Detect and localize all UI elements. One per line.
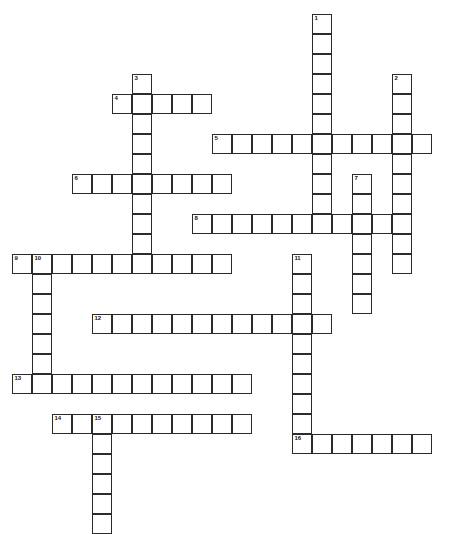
crossword-cell[interactable] bbox=[232, 314, 252, 334]
crossword-cell[interactable] bbox=[232, 134, 252, 154]
crossword-cell[interactable] bbox=[152, 314, 172, 334]
crossword-cell[interactable] bbox=[352, 294, 372, 314]
crossword-cell[interactable] bbox=[32, 294, 52, 314]
crossword-cell[interactable] bbox=[192, 94, 212, 114]
crossword-cell[interactable] bbox=[132, 114, 152, 134]
crossword-cell[interactable] bbox=[192, 414, 212, 434]
crossword-cell[interactable] bbox=[132, 154, 152, 174]
crossword-cell[interactable] bbox=[132, 254, 152, 274]
crossword-cell[interactable] bbox=[312, 114, 332, 134]
crossword-cell[interactable] bbox=[352, 194, 372, 214]
crossword-cell[interactable] bbox=[392, 194, 412, 214]
crossword-cell[interactable] bbox=[152, 414, 172, 434]
crossword-cell[interactable] bbox=[412, 434, 432, 454]
crossword-cell[interactable] bbox=[132, 234, 152, 254]
crossword-cell[interactable] bbox=[92, 434, 112, 454]
crossword-cell[interactable] bbox=[332, 214, 352, 234]
crossword-cell[interactable] bbox=[212, 374, 232, 394]
crossword-cell[interactable] bbox=[292, 294, 312, 314]
crossword-cell[interactable] bbox=[92, 494, 112, 514]
crossword-cell[interactable] bbox=[352, 134, 372, 154]
crossword-cell[interactable] bbox=[252, 214, 272, 234]
crossword-cell[interactable] bbox=[372, 214, 392, 234]
crossword-cell[interactable] bbox=[312, 194, 332, 214]
crossword-cell[interactable] bbox=[172, 94, 192, 114]
crossword-cell[interactable] bbox=[312, 434, 332, 454]
crossword-cell[interactable] bbox=[272, 214, 292, 234]
crossword-cell[interactable] bbox=[72, 254, 92, 274]
crossword-cell[interactable] bbox=[352, 234, 372, 254]
crossword-cell[interactable] bbox=[112, 314, 132, 334]
crossword-cell[interactable] bbox=[72, 374, 92, 394]
crossword-cell-numbered[interactable]: 4 bbox=[112, 94, 132, 114]
crossword-cell[interactable] bbox=[292, 414, 312, 434]
crossword-cell[interactable] bbox=[312, 134, 332, 154]
crossword-cell[interactable] bbox=[212, 254, 232, 274]
crossword-cell[interactable] bbox=[392, 114, 412, 134]
crossword-cell[interactable] bbox=[292, 394, 312, 414]
crossword-cell-numbered[interactable]: 2 bbox=[392, 74, 412, 94]
crossword-cell[interactable] bbox=[112, 414, 132, 434]
crossword-cell[interactable] bbox=[312, 74, 332, 94]
crossword-cell[interactable] bbox=[192, 174, 212, 194]
crossword-cell[interactable] bbox=[192, 254, 212, 274]
crossword-cell[interactable] bbox=[312, 54, 332, 74]
crossword-cell[interactable] bbox=[132, 314, 152, 334]
crossword-cell-numbered[interactable]: 11 bbox=[292, 254, 312, 274]
crossword-cell[interactable] bbox=[132, 134, 152, 154]
crossword-cell[interactable] bbox=[152, 94, 172, 114]
crossword-cell[interactable] bbox=[312, 94, 332, 114]
crossword-cell-numbered[interactable]: 7 bbox=[352, 174, 372, 194]
crossword-cell[interactable] bbox=[352, 214, 372, 234]
crossword-cell[interactable] bbox=[392, 254, 412, 274]
crossword-cell[interactable] bbox=[292, 334, 312, 354]
crossword-cell[interactable] bbox=[212, 174, 232, 194]
crossword-cell[interactable] bbox=[292, 274, 312, 294]
crossword-cell[interactable] bbox=[392, 234, 412, 254]
crossword-cell[interactable] bbox=[292, 314, 312, 334]
crossword-cell[interactable] bbox=[112, 254, 132, 274]
crossword-cell[interactable] bbox=[332, 434, 352, 454]
crossword-cell-numbered[interactable]: 3 bbox=[132, 74, 152, 94]
crossword-cell[interactable] bbox=[32, 374, 52, 394]
crossword-cell-numbered[interactable]: 16 bbox=[292, 434, 312, 454]
crossword-cell[interactable] bbox=[292, 374, 312, 394]
crossword-cell[interactable] bbox=[172, 314, 192, 334]
crossword-cell[interactable] bbox=[32, 334, 52, 354]
crossword-cell[interactable] bbox=[132, 174, 152, 194]
crossword-cell[interactable] bbox=[292, 134, 312, 154]
crossword-cell-numbered[interactable]: 1 bbox=[312, 14, 332, 34]
crossword-cell[interactable] bbox=[212, 414, 232, 434]
crossword-cell[interactable] bbox=[92, 374, 112, 394]
crossword-cell[interactable] bbox=[52, 254, 72, 274]
crossword-cell[interactable] bbox=[132, 374, 152, 394]
crossword-cell-numbered[interactable]: 10 bbox=[32, 254, 52, 274]
crossword-cell-numbered[interactable]: 5 bbox=[212, 134, 232, 154]
crossword-cell[interactable] bbox=[212, 214, 232, 234]
crossword-cell[interactable] bbox=[132, 94, 152, 114]
crossword-cell[interactable] bbox=[112, 174, 132, 194]
crossword-cell[interactable] bbox=[332, 134, 352, 154]
crossword-cell[interactable] bbox=[192, 314, 212, 334]
crossword-cell[interactable] bbox=[112, 374, 132, 394]
crossword-cell-numbered[interactable]: 6 bbox=[72, 174, 92, 194]
crossword-cell[interactable] bbox=[352, 434, 372, 454]
crossword-cell[interactable] bbox=[292, 214, 312, 234]
crossword-cell[interactable] bbox=[172, 414, 192, 434]
crossword-cell[interactable] bbox=[412, 134, 432, 154]
crossword-cell[interactable] bbox=[352, 274, 372, 294]
crossword-cell[interactable] bbox=[92, 514, 112, 534]
crossword-cell[interactable] bbox=[372, 434, 392, 454]
crossword-cell[interactable] bbox=[372, 134, 392, 154]
crossword-cell-numbered[interactable]: 15 bbox=[92, 414, 112, 434]
crossword-cell-numbered[interactable]: 14 bbox=[52, 414, 72, 434]
crossword-cell[interactable] bbox=[312, 154, 332, 174]
crossword-cell[interactable] bbox=[272, 314, 292, 334]
crossword-cell[interactable] bbox=[152, 254, 172, 274]
crossword-cell[interactable] bbox=[392, 174, 412, 194]
crossword-cell[interactable] bbox=[252, 314, 272, 334]
crossword-cell[interactable] bbox=[72, 414, 92, 434]
crossword-cell[interactable] bbox=[92, 254, 112, 274]
crossword-cell[interactable] bbox=[132, 414, 152, 434]
